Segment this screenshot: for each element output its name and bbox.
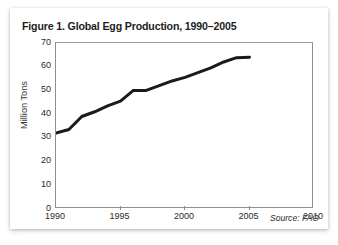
x-tick-mark: [120, 206, 121, 210]
x-tick-mark: [184, 206, 185, 210]
y-tick-label: 10: [25, 180, 51, 189]
plot-area: [55, 42, 313, 208]
y-tick-label: 40: [25, 109, 51, 118]
page-title: Figure 1. Global Egg Production, 1990–20…: [22, 20, 236, 32]
x-tick-label: 2005: [229, 211, 269, 221]
x-tick-label: 1995: [100, 211, 140, 221]
chart-line-svg: [56, 43, 313, 208]
y-tick-label: 70: [25, 38, 51, 47]
y-tick-label: 50: [25, 85, 51, 94]
x-tick-label: 2000: [164, 211, 204, 221]
y-tick-label: 60: [25, 61, 51, 70]
data-series-line: [56, 57, 250, 133]
x-tick-label: 1990: [35, 211, 75, 221]
source-note: Source: FAO: [270, 213, 319, 223]
y-tick-label: 20: [25, 156, 51, 165]
figure-root: Figure 1. Global Egg Production, 1990–20…: [0, 0, 338, 245]
x-tick-mark: [249, 206, 250, 210]
y-axis-tick-labels: 010203040506070: [18, 42, 51, 208]
figure-card: Figure 1. Global Egg Production, 1990–20…: [10, 8, 328, 229]
y-tick-label: 30: [25, 132, 51, 141]
